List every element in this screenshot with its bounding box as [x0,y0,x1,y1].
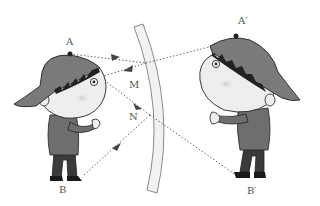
point-A-marker [68,52,73,57]
boy-right-pants [240,148,264,172]
label-B: B [59,184,66,195]
boy-left-shoe [50,176,63,181]
arrow-icon [112,143,121,151]
boy-right-shirt [237,108,270,150]
boy-left-cheek [74,93,90,103]
boy-object [14,52,106,182]
boy-right-arm [218,114,248,124]
boy-right-pupil [215,63,218,66]
boy-left-pants [52,152,77,178]
arrow-icon [133,103,142,110]
boy-left-pupil [93,81,96,84]
boy-image [200,34,300,179]
boy-left-shoe-2 [67,176,82,181]
reflection-diagram: A A′ M N B B′ [0,0,320,206]
point-A-prime-marker [234,34,239,39]
boy-right-cheek [218,79,234,89]
label-N: N [129,111,138,122]
arrow-icon [123,65,133,72]
label-B-prime: B′ [247,185,257,196]
label-M: M [129,79,139,90]
boy-right-shoe [234,172,250,178]
boy-right-shoe-2 [254,172,266,178]
label-A: A [65,36,74,47]
boy-left-arm [68,122,96,133]
boy-left-hand [92,119,100,128]
ray-mirror-to-eye [104,63,146,76]
boy-left-shirt [48,115,79,155]
label-A-prime: A′ [237,15,248,26]
boy-right-ear [265,94,275,106]
ray-N-to-eye [104,80,150,115]
